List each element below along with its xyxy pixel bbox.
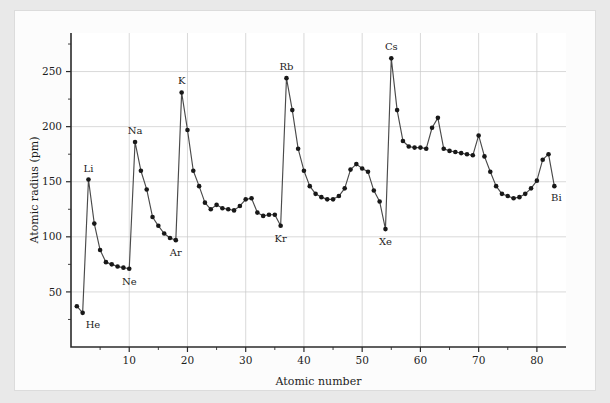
data-point [552,184,557,189]
y-tick-label: 150 [42,175,62,187]
x-axis-title: Atomic number [275,375,363,388]
data-point [494,184,499,189]
data-point [197,184,202,189]
data-point [226,207,231,212]
data-point [127,266,132,271]
data-point [505,194,510,199]
data-point [302,168,307,173]
data-point [476,133,481,138]
data-point [261,214,266,219]
x-tick-label: 10 [123,354,136,366]
data-point [284,76,289,81]
data-point [98,248,103,253]
data-point [540,157,545,162]
data-point [482,154,487,159]
data-point [436,116,441,121]
data-point [243,197,248,202]
data-point [168,236,173,241]
data-point [139,168,144,173]
atomic-radius-line-chart: HeLiNeNaArKKrRbXeCsBi 102030405060708050… [0,0,610,403]
data-point [319,195,324,200]
data-point [150,215,155,220]
data-point [267,212,272,217]
data-point [389,56,394,61]
data-point [232,208,237,213]
x-tick-label: 20 [181,354,194,366]
y-tick-label: 100 [42,230,62,242]
y-tick-label: 250 [42,65,62,77]
data-point [92,221,97,226]
point-label-he: He [86,319,101,330]
y-axis-title: Atomic radius (pm) [28,136,41,244]
data-point [372,188,377,193]
data-point [529,186,534,191]
data-point [296,146,301,151]
y-tick-label: 200 [42,120,62,132]
data-point [441,146,446,151]
x-tick-label: 60 [414,354,427,366]
data-point [278,224,283,229]
chart-page: HeLiNeNaArKKrRbXeCsBi 102030405060708050… [0,0,610,403]
data-point [75,304,80,309]
y-tick-label: 50 [49,286,62,298]
data-point [156,224,161,229]
data-point [104,260,109,265]
data-point [471,153,476,158]
data-point [535,178,540,183]
x-tick-label: 30 [239,354,252,366]
point-label-li: Li [84,163,94,174]
data-point [290,108,295,113]
data-point [511,196,516,201]
x-tick-label: 40 [297,354,310,366]
data-point [214,203,219,208]
data-point [174,238,179,243]
data-point [191,168,196,173]
data-point [447,149,452,154]
data-point [162,231,167,236]
point-label-bi: Bi [551,192,562,203]
data-point [459,151,464,156]
data-point [337,194,342,199]
point-label-xe: Xe [379,236,392,247]
data-point [86,177,91,182]
data-point [517,195,522,200]
point-label-ne: Ne [122,276,137,287]
data-point [273,212,278,217]
data-point [331,197,336,202]
data-point [523,192,528,197]
point-label-k: K [178,75,186,86]
data-point [342,186,347,191]
x-tick-label: 70 [472,354,485,366]
data-point [185,128,190,133]
data-point [412,145,417,150]
data-point [348,167,353,172]
chart-plot-wrapper: HeLiNeNaArKKrRbXeCsBi 102030405060708050… [0,0,610,403]
x-tick-label: 50 [355,354,368,366]
data-point [80,311,85,316]
data-point [115,264,120,269]
point-label-ar: Ar [169,247,182,258]
data-point [406,144,411,149]
data-point [465,152,470,157]
data-point [354,162,359,167]
data-point [430,125,435,130]
data-point [133,140,138,145]
data-point [395,108,400,113]
data-point [325,197,330,202]
data-point [546,152,551,157]
x-tick-label: 80 [530,354,543,366]
data-point [249,196,254,201]
data-point [424,146,429,151]
point-label-rb: Rb [280,61,294,72]
data-point [401,139,406,144]
data-point [377,199,382,204]
data-point [360,166,365,171]
data-point [307,184,312,189]
point-label-kr: Kr [275,233,287,244]
data-point [255,210,260,215]
data-point [453,150,458,155]
data-point [366,170,371,175]
data-point [383,227,388,232]
point-label-na: Na [128,125,143,136]
data-point [109,262,114,267]
